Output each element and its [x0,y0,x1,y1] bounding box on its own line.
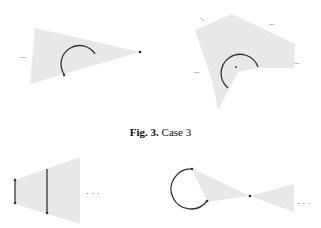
ellipsis-upper-right: ... [269,19,275,27]
ellipsis: ... [20,51,26,60]
point [139,51,142,54]
visibility-region [250,184,294,212]
figure-caption: Fig. 3. Case 3 [0,126,321,138]
figure-diagram: ... ... ... ... ... · · · · · · [0,0,321,228]
panel-bottom-left: · · · [14,157,100,224]
segment-endpoint [14,202,17,205]
segment-endpoint [14,179,17,182]
ellipsis: · · · [297,198,311,208]
center-point [235,66,237,68]
point [249,195,252,198]
arc-endpoint [63,74,65,76]
ellipsis-right: ... [294,58,300,66]
caption-label: Fig. 3. [130,126,159,138]
visibility-region [191,168,250,202]
panel-top-right: ... ... ... ... [194,14,300,110]
caption-text: Case 3 [162,126,192,138]
visibility-region [195,14,295,110]
ellipsis-left: ... [194,67,200,75]
visibility-region [30,28,140,84]
ellipsis-top: ... [199,14,208,24]
panel-top-left: ... [20,28,141,84]
panel-bottom-right: · · · [171,168,310,212]
arc-endpoint [191,168,194,171]
segment-endpoint [46,212,49,215]
ellipsis: · · · [86,188,100,198]
arc-endpoint [206,200,209,203]
